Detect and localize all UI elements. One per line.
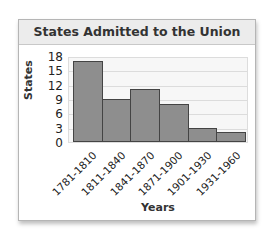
y-axis-label: States [22,60,35,100]
y-tick-label: 0 [41,137,63,149]
y-tick-label: 12 [41,80,63,92]
x-axis-label: Years [68,201,248,214]
y-tick-label: 6 [41,108,63,120]
y-tick-label: 9 [41,94,63,106]
y-tick-label: 18 [41,51,63,63]
y-tick-label: 3 [41,123,63,135]
y-tick-label: 15 [41,65,63,77]
